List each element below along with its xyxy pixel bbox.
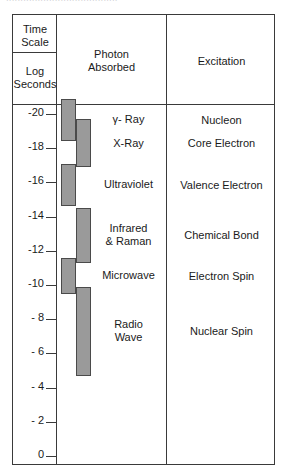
- axis-tick-mark: [46, 217, 57, 218]
- photon-band-label: Microwave: [91, 269, 166, 282]
- photon-band-label-line: X-Ray: [91, 137, 166, 150]
- axis-tick-label: -12: [28, 244, 44, 255]
- axis-tick-label: - 6: [31, 346, 44, 357]
- axis-tick-mark: [46, 114, 57, 115]
- axis-tick: - 2: [13, 422, 57, 423]
- excitation-label: Electron Spin: [167, 270, 276, 283]
- axis-tick: -10: [13, 285, 57, 286]
- axis-tick-mark: [46, 148, 57, 149]
- axis-tick: -18: [13, 148, 57, 149]
- photon-band-label-line: Microwave: [91, 269, 166, 282]
- axis-tick-label: -16: [28, 175, 44, 186]
- photon-band-label: γ- Ray: [91, 113, 166, 126]
- axis-tick-mark: [46, 422, 57, 423]
- axis-tick-mark: [46, 182, 57, 183]
- photon-band-bar: [76, 287, 91, 376]
- axis-tick: - 6: [13, 353, 57, 354]
- axis-tick-mark: [46, 319, 57, 320]
- photon-band-label-line: Radio: [91, 318, 166, 331]
- photon-band-bar: [61, 258, 76, 294]
- header-log-seconds: Log Seconds: [13, 65, 57, 91]
- photon-band-label-line: γ- Ray: [91, 113, 166, 126]
- excitation-label: Nuclear Spin: [167, 325, 276, 338]
- excitation-label: Chemical Bond: [167, 229, 276, 242]
- photon-band-label-line: Ultraviolet: [91, 178, 166, 191]
- excitation-label: Nucleon: [167, 114, 276, 127]
- axis-tick: -16: [13, 182, 57, 183]
- axis-tick: 0: [13, 456, 57, 457]
- axis-tick-mark: [46, 285, 57, 286]
- axis-tick-mark: [46, 456, 57, 457]
- header-excitation: Excitation: [167, 55, 276, 68]
- axis-tick: -14: [13, 217, 57, 218]
- axis-tick-mark: [46, 388, 57, 389]
- header-photon-line1: Photon: [57, 48, 166, 61]
- photon-band-label: Infrared& Raman: [91, 222, 166, 248]
- photon-band-label-line: Infrared: [91, 222, 166, 235]
- axis-tick-label: - 2: [31, 415, 44, 426]
- header-log-seconds-line1: Log: [13, 65, 57, 78]
- photon-band-label-line: Wave: [91, 331, 166, 344]
- axis-tick-mark: [46, 353, 57, 354]
- axis-tick-label: 0: [38, 449, 44, 460]
- spectroscopy-table: Time Scale Log Seconds Photon Absorbed E…: [12, 14, 275, 465]
- header-log-seconds-line2: Seconds: [13, 78, 57, 91]
- axis-tick-label: -14: [28, 210, 44, 221]
- header-time-scale: Time Scale: [13, 23, 57, 49]
- timescale-subheader-rule: [13, 52, 57, 53]
- axis-tick-label: -20: [28, 107, 44, 118]
- axis-tick-label: - 4: [31, 381, 44, 392]
- axis-tick-label: - 8: [31, 312, 44, 323]
- excitation-label: Valence Electron: [167, 179, 276, 192]
- excitation-label: Core Electron: [167, 137, 276, 150]
- photon-band-bar: [61, 164, 76, 207]
- axis-tick: - 8: [13, 319, 57, 320]
- photon-band-label: X-Ray: [91, 137, 166, 150]
- header-time-scale-line2: Scale: [13, 36, 57, 49]
- photon-band-bar: [61, 99, 76, 142]
- photon-band-bar: [76, 208, 91, 263]
- axis-tick-mark: [46, 251, 57, 252]
- header-photon-line2: Absorbed: [57, 61, 166, 74]
- photon-band-label: Ultraviolet: [91, 178, 166, 191]
- header-photon-absorbed: Photon Absorbed: [57, 48, 166, 74]
- axis-tick-label: -10: [28, 278, 44, 289]
- header-bottom-rule: [13, 104, 274, 105]
- axis-tick: -12: [13, 251, 57, 252]
- axis-tick-label: -18: [28, 141, 44, 152]
- photon-band-label: RadioWave: [91, 318, 166, 344]
- axis-tick: -20: [13, 114, 57, 115]
- photon-band-label-line: & Raman: [91, 235, 166, 248]
- header-time-scale-line1: Time: [13, 23, 57, 36]
- scan-edge-fragment: ·······································: [6, 0, 278, 5]
- axis-tick: - 4: [13, 388, 57, 389]
- photon-band-bar: [76, 119, 91, 167]
